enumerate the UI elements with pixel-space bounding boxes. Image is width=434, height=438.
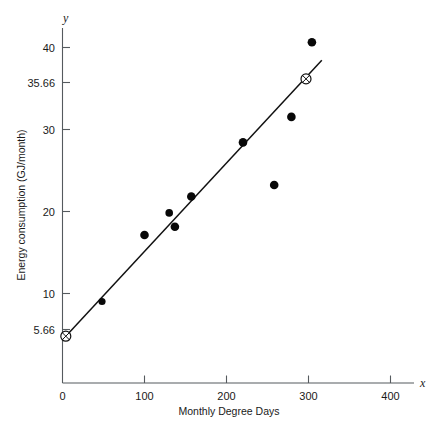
data-point: [270, 181, 279, 190]
x-axis-title: Monthly Degree Days: [179, 405, 280, 417]
x-axis-symbol: x: [419, 376, 426, 390]
y-tick-label-30: 30: [43, 124, 55, 136]
scatter-plot: 40 35.66 30 20 10 5.66 0 100 200 300 400…: [0, 0, 434, 438]
x-tick-label-200: 200: [217, 390, 235, 402]
x-tick-label-100: 100: [135, 390, 153, 402]
data-point: [98, 298, 105, 305]
y-axis-symbol: y: [62, 11, 69, 25]
x-tick-label-400: 400: [381, 390, 399, 402]
y-tick-label-20: 20: [43, 206, 55, 218]
data-point: [239, 138, 248, 147]
chart-figure: 40 35.66 30 20 10 5.66 0 100 200 300 400…: [0, 0, 434, 438]
y-axis-title: Energy consumption (GJ/month): [15, 129, 27, 280]
data-point: [165, 209, 173, 217]
y-tick-label-5-66: 5.66: [34, 324, 55, 336]
y-tick-label-10: 10: [43, 288, 55, 300]
data-point: [308, 38, 317, 47]
x-tick-label-0: 0: [59, 390, 65, 402]
y-axis-ticks: [63, 48, 71, 330]
data-point: [140, 231, 149, 240]
y-tick-label-35-66: 35.66: [27, 77, 55, 89]
x-tick-label-300: 300: [299, 390, 317, 402]
data-point: [187, 192, 196, 201]
x-axis-ticks: [145, 376, 391, 384]
highlighted-point-prediction: [301, 74, 311, 84]
data-point: [287, 113, 296, 122]
data-point: [171, 223, 180, 232]
highlighted-point-intercept: [61, 331, 71, 341]
y-tick-label-40: 40: [43, 42, 55, 54]
